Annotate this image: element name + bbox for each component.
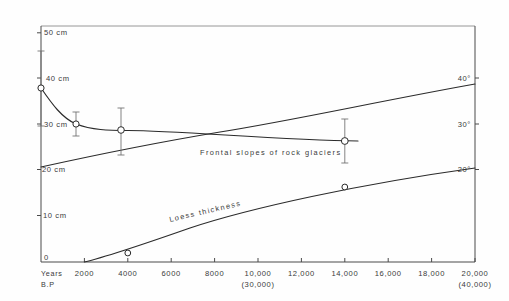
y-tick-label-left-50: 50 cm — [44, 28, 68, 37]
chart-figure: 50 cm 40 cm 30 cm 20 cm 10 cm 0 40° 30° … — [0, 0, 509, 301]
x-axis-caption-line2: B.P — [41, 280, 55, 289]
x-tick-sublabel-10000: (30,000) — [241, 280, 274, 289]
data-point-group-2 — [73, 112, 80, 136]
y-tick-label-left-0: 0 — [44, 253, 49, 262]
y-tick-label-right-40: 40° — [458, 74, 471, 83]
x-axis-ticks: 2000 4000 6000 8000 10,000 (30,000) 12,0… — [75, 258, 492, 289]
x-tick-label-6000: 6000 — [162, 269, 181, 278]
data-marker-3 — [118, 127, 125, 134]
series-curve-decay — [41, 88, 358, 141]
annotation-frontal-slopes: Frontal slopes of rock glaciers — [200, 148, 342, 157]
x-tick-label-14000: 14,000 — [331, 269, 358, 278]
data-marker-4 — [341, 138, 348, 145]
y-tick-label-left-40: 40 cm — [46, 74, 70, 83]
x-tick-label-8000: 8000 — [205, 269, 224, 278]
x-tick-label-16000: 16,000 — [375, 269, 402, 278]
data-marker-1 — [38, 85, 44, 91]
data-point-group-4 — [341, 119, 348, 163]
y-axis-left-ticks: 50 cm 40 cm 30 cm 20 cm 10 cm 0 — [37, 28, 70, 262]
data-point-group-1 — [38, 51, 45, 126]
y-tick-label-right-30: 30° — [458, 120, 471, 129]
x-tick-label-10000: 10,000 — [245, 269, 272, 278]
data-marker-2 — [73, 121, 79, 127]
x-tick-label-4000: 4000 — [118, 269, 137, 278]
x-tick-label-12000: 12,000 — [288, 269, 315, 278]
x-tick-label-20000: 20,000 — [462, 269, 489, 278]
x-axis-caption-line1: Years — [41, 269, 63, 278]
x-tick-label-18000: 18,000 — [418, 269, 445, 278]
y-axis-right-ticks: 40° 30° 20° — [458, 74, 479, 175]
y-tick-label-left-10: 10 cm — [43, 211, 67, 220]
chart-canvas: 50 cm 40 cm 30 cm 20 cm 10 cm 0 40° 30° … — [0, 0, 509, 301]
x-axis-caption: Years B.P — [41, 269, 63, 289]
y-tick-label-left-30: 30 cm — [44, 120, 68, 129]
series-curve-loess-thickness — [84, 168, 475, 262]
x-tick-label-2000: 2000 — [75, 269, 94, 278]
data-marker-loess-14000 — [342, 184, 348, 190]
x-tick-sublabel-20000: (40,000) — [458, 280, 491, 289]
annotation-loess-thickness: Loess thickness — [168, 199, 242, 224]
data-point-group-3 — [118, 108, 125, 155]
data-marker-loess-4000 — [125, 250, 131, 256]
